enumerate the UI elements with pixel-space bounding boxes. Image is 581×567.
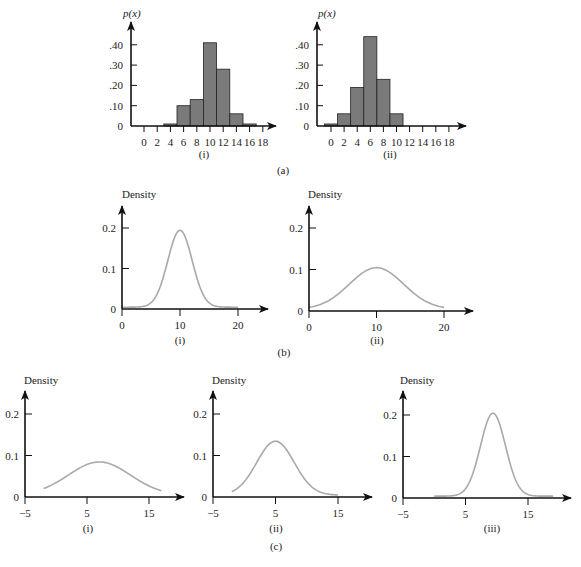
y-tick-label: 0.2 xyxy=(193,408,207,420)
x-tick-label: 12 xyxy=(218,136,229,148)
y-tick-label: 0 xyxy=(202,491,208,503)
y-tick-label: 0.2 xyxy=(5,408,19,420)
y-tick-label: 0 xyxy=(298,305,304,317)
y-tick-label: 0.1 xyxy=(289,264,303,276)
y-ticks: 00.10.2 xyxy=(289,222,316,317)
x-tick-label: −5 xyxy=(397,508,409,520)
x-ticks: 01020 xyxy=(119,309,244,331)
histogram-bar xyxy=(338,114,351,126)
y-ticks: 00.10.2 xyxy=(193,408,220,503)
panel-label-c: (c) xyxy=(270,540,283,553)
density-curve xyxy=(309,268,444,308)
density-c-iii: Density 00.10.2 −5515 (iii) xyxy=(383,374,571,535)
y-axis-label: p(x) xyxy=(122,7,141,20)
x-tick-label: 10 xyxy=(371,321,383,333)
subplot-label: (i) xyxy=(175,334,186,347)
y-axis-label: Density xyxy=(400,374,435,386)
x-tick-label: 15 xyxy=(523,508,535,520)
y-tick-label: 0.2 xyxy=(289,222,303,234)
x-ticks: 024681012141618 xyxy=(328,126,455,148)
x-tick-label: −5 xyxy=(207,507,219,519)
subplot-label: (ii) xyxy=(383,148,397,161)
x-tick-label: 10 xyxy=(205,136,217,148)
density-b-i: Density 00.10.2 01020 (i) xyxy=(102,188,268,347)
x-ticks: −5515 xyxy=(207,497,344,519)
density-b-ii: Density 00.10.2 01020 (ii) xyxy=(289,188,473,347)
y-axis-label: Density xyxy=(24,374,59,386)
y-tick-label: .20 xyxy=(295,79,309,91)
histogram-bar xyxy=(177,106,190,126)
histogram-bar xyxy=(390,114,403,126)
x-tick-label: 5 xyxy=(84,507,90,519)
x-tick-label: 6 xyxy=(181,136,187,148)
y-tick-label: .20 xyxy=(109,79,123,91)
histogram-bar xyxy=(377,79,390,126)
y-ticks: 0.10.20.30.40 xyxy=(109,39,137,132)
y-tick-label: 0 xyxy=(392,492,398,504)
y-tick-label: 0.1 xyxy=(102,263,116,275)
x-tick-label: 14 xyxy=(231,136,243,148)
y-tick-label: 0.2 xyxy=(383,409,397,421)
x-tick-label: 5 xyxy=(273,507,279,519)
y-axis-label: Density xyxy=(122,188,157,200)
x-tick-label: 0 xyxy=(306,321,312,333)
x-tick-label: 5 xyxy=(463,508,469,520)
subplot-label: (i) xyxy=(199,148,210,161)
y-tick-label: 0.2 xyxy=(102,222,116,234)
y-ticks: 00.10.2 xyxy=(383,409,410,504)
x-tick-label: 6 xyxy=(368,136,374,148)
y-axis-label: Density xyxy=(212,374,247,386)
density-curve xyxy=(122,230,238,307)
y-tick-label: .10 xyxy=(109,100,123,112)
x-tick-label: 10 xyxy=(391,136,403,148)
x-tick-label: 20 xyxy=(233,319,245,331)
x-tick-label: 20 xyxy=(439,321,451,333)
y-ticks: 0.10.20.30.40 xyxy=(295,39,323,132)
x-tick-label: 8 xyxy=(194,136,200,148)
x-tick-label: 8 xyxy=(381,136,387,148)
y-tick-label: .40 xyxy=(109,39,123,51)
x-tick-label: 12 xyxy=(404,136,415,148)
y-tick-label: 0 xyxy=(118,120,124,132)
x-tick-label: 2 xyxy=(341,136,347,148)
density-c-ii: Density 00.10.2 −5515 (ii) xyxy=(193,374,372,535)
histogram-bar xyxy=(217,69,230,126)
y-tick-label: 0.1 xyxy=(383,451,397,463)
panel-label-a: (a) xyxy=(277,164,290,177)
x-tick-label: 0 xyxy=(119,319,125,331)
x-tick-label: 10 xyxy=(175,319,187,331)
y-tick-label: 0 xyxy=(111,303,117,315)
x-tick-label: 14 xyxy=(417,136,429,148)
y-tick-label: 0.1 xyxy=(5,450,19,462)
histogram-a-i: p(x) 0.10.20.30.40 024681012141618 (i) xyxy=(109,7,276,161)
x-tick-label: 0 xyxy=(141,136,147,148)
x-tick-label: 16 xyxy=(430,136,442,148)
y-tick-label: .10 xyxy=(295,100,309,112)
subplot-label: (ii) xyxy=(269,522,283,535)
y-axis-label: Density xyxy=(308,188,343,200)
histogram-bar xyxy=(364,37,377,126)
y-tick-label: .30 xyxy=(295,59,309,71)
y-tick-label: 0 xyxy=(304,120,310,132)
y-ticks: 00.10.2 xyxy=(102,222,129,315)
histogram-a-ii: p(x) 0.10.20.30.40 024681012141618 (ii) xyxy=(295,7,466,161)
x-tick-label: −5 xyxy=(19,507,31,519)
histogram-bar xyxy=(190,100,203,126)
density-c-i: Density 00.10.2 −5515 (i) xyxy=(5,374,184,535)
x-ticks: 024681012141618 xyxy=(141,126,269,148)
histogram-bar xyxy=(203,43,216,126)
y-ticks: 00.10.2 xyxy=(5,408,32,503)
bars xyxy=(324,37,403,126)
x-tick-label: 16 xyxy=(244,136,256,148)
histogram-bar xyxy=(230,114,243,126)
x-tick-label: 15 xyxy=(144,507,156,519)
subplot-label: (i) xyxy=(83,522,94,535)
density-curve xyxy=(434,413,553,496)
histogram-bar xyxy=(351,87,364,126)
density-curve xyxy=(44,462,162,491)
x-tick-label: 18 xyxy=(443,136,455,148)
x-tick-label: 4 xyxy=(354,136,360,148)
x-tick-label: 2 xyxy=(154,136,160,148)
figure: p(x) 0.10.20.30.40 024681012141618 (i) p… xyxy=(0,0,581,567)
x-ticks: 01020 xyxy=(306,311,450,333)
